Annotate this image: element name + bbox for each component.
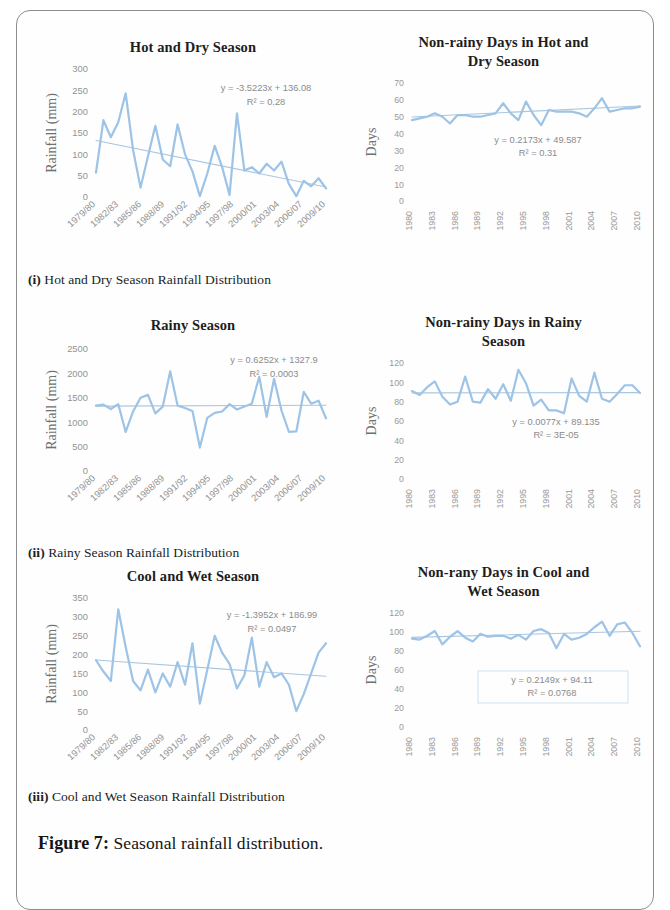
svg-text:1000: 1000 <box>67 417 88 428</box>
svg-text:50: 50 <box>78 170 88 181</box>
svg-text:1980: 1980 <box>404 211 414 231</box>
svg-text:1980: 1980 <box>404 737 414 757</box>
svg-text:150: 150 <box>72 127 88 138</box>
panel-cool-wet-nonrainy: Non-rany Days in Cool and Wet Season 020… <box>356 563 651 796</box>
svg-text:300: 300 <box>72 63 88 74</box>
subcaption-i-text: Hot and Dry Season Rainfall Distribution <box>41 272 271 287</box>
svg-text:40: 40 <box>394 129 404 139</box>
subcaption-ii: (ii) Rainy Season Rainfall Distribution <box>28 545 239 561</box>
chart-cool-wet-nonrainy: 020406080100120Days198019831986198919921… <box>356 601 651 796</box>
svg-text:2001: 2001 <box>564 737 574 757</box>
svg-text:1986: 1986 <box>450 737 460 757</box>
chart-rainy-rainfall: 05001000150020002500Rainfall (mm)1979/80… <box>34 335 352 540</box>
svg-text:Days: Days <box>364 656 379 685</box>
svg-text:1992: 1992 <box>495 737 505 757</box>
svg-text:1995: 1995 <box>518 211 528 231</box>
chart-title-rainy-rainfall: Rainy Season <box>34 316 352 335</box>
subcaption-iii: (iii) Cool and Wet Season Rainfall Distr… <box>28 789 285 805</box>
svg-text:y = 0.2173x + 49.587: y = 0.2173x + 49.587 <box>494 135 581 145</box>
subcaption-iii-lead: (iii) <box>28 789 49 804</box>
svg-text:y = -3.5223x + 136.08: y = -3.5223x + 136.08 <box>221 83 311 93</box>
svg-text:40: 40 <box>394 436 404 446</box>
chart-hot-dry-nonrainy: 010203040506070Days198019831986198919921… <box>356 71 651 266</box>
svg-text:100: 100 <box>72 149 88 160</box>
svg-text:1998: 1998 <box>541 737 551 757</box>
svg-text:80: 80 <box>394 397 404 407</box>
svg-text:1986: 1986 <box>450 211 460 231</box>
svg-text:2500: 2500 <box>67 343 88 354</box>
svg-text:100: 100 <box>389 378 404 388</box>
svg-text:y = -1.3952x + 186.99: y = -1.3952x + 186.99 <box>227 610 317 620</box>
svg-text:1983: 1983 <box>427 737 437 757</box>
figure-caption: Figure 7: Seasonal rainfall distribution… <box>38 833 323 854</box>
svg-text:R² = 0.28: R² = 0.28 <box>247 97 286 107</box>
chart-title-rainy-nonrainy-line1: Non-rainy Days in Rainy <box>356 313 651 332</box>
svg-text:0: 0 <box>399 722 404 732</box>
svg-text:20: 20 <box>394 455 404 465</box>
svg-text:100: 100 <box>389 627 404 637</box>
svg-text:R² = 3E-05: R² = 3E-05 <box>533 430 578 440</box>
svg-text:Days: Days <box>364 407 379 436</box>
panel-rainy-rainfall: Rainy Season 05001000150020002500Rainfal… <box>34 316 352 540</box>
svg-text:0: 0 <box>399 474 404 484</box>
svg-text:0: 0 <box>399 196 404 206</box>
svg-text:50: 50 <box>394 112 404 122</box>
chart-svg-rainy-rainfall: 05001000150020002500Rainfall (mm)1979/80… <box>34 335 352 540</box>
svg-text:500: 500 <box>72 441 88 452</box>
svg-text:2010: 2010 <box>632 211 642 231</box>
svg-text:1998: 1998 <box>541 211 551 231</box>
subcaption-i-lead: (i) <box>28 272 41 287</box>
svg-text:Rainfall (mm): Rainfall (mm) <box>44 93 60 173</box>
svg-text:1986: 1986 <box>450 489 460 509</box>
svg-text:1995: 1995 <box>518 737 528 757</box>
svg-text:R² = 0.0003: R² = 0.0003 <box>250 369 299 379</box>
svg-text:2007: 2007 <box>609 737 619 757</box>
svg-text:1980: 1980 <box>404 489 414 509</box>
svg-text:20: 20 <box>394 703 404 713</box>
svg-text:10: 10 <box>394 180 404 190</box>
svg-text:120: 120 <box>389 358 404 368</box>
panel-hot-dry-rainfall: Hot and Dry Season 050100150200250300Rai… <box>34 38 352 262</box>
svg-text:1989: 1989 <box>472 737 482 757</box>
chart-title-cool-wet-nonrainy-line1: Non-rany Days in Cool and <box>356 563 651 582</box>
svg-text:Rainfall (mm): Rainfall (mm) <box>44 370 60 450</box>
svg-text:30: 30 <box>394 146 404 156</box>
subcaption-ii-text: Rainy Season Rainfall Distribution <box>45 545 239 560</box>
chart-title-cool-wet-rainfall: Cool and Wet Season <box>34 567 352 586</box>
svg-text:1983: 1983 <box>427 489 437 509</box>
svg-text:R² = 0.0497: R² = 0.0497 <box>248 624 297 634</box>
svg-text:60: 60 <box>394 95 404 105</box>
chart-svg-hot-dry-nonrainy: 010203040506070Days198019831986198919921… <box>356 71 651 266</box>
svg-text:60: 60 <box>394 665 404 675</box>
svg-text:2007: 2007 <box>609 489 619 509</box>
subcaption-ii-lead: (ii) <box>28 545 45 560</box>
svg-text:20: 20 <box>394 163 404 173</box>
svg-text:1500: 1500 <box>67 392 88 403</box>
svg-text:y = 0.0077x + 89.135: y = 0.0077x + 89.135 <box>512 417 599 427</box>
chart-cool-wet-rainfall: 050100150200250300350Rainfall (mm)1979/8… <box>34 586 352 796</box>
chart-hot-dry-rainfall: 050100150200250300Rainfall (mm)1979/8019… <box>34 57 352 262</box>
svg-text:120: 120 <box>389 608 404 618</box>
svg-text:y = 0.2149x + 94.11: y = 0.2149x + 94.11 <box>511 675 593 685</box>
svg-text:250: 250 <box>72 630 88 641</box>
chart-rainy-nonrainy: 020406080100120Days198019831986198919921… <box>356 351 651 546</box>
svg-text:R² = 0.31: R² = 0.31 <box>519 148 558 158</box>
svg-text:2010: 2010 <box>632 489 642 509</box>
chart-title-hot-dry-rainfall: Hot and Dry Season <box>34 38 352 57</box>
svg-text:Days: Days <box>364 128 379 157</box>
svg-text:300: 300 <box>72 611 88 622</box>
svg-text:200: 200 <box>72 649 88 660</box>
svg-text:60: 60 <box>394 416 404 426</box>
svg-text:1992: 1992 <box>495 211 505 231</box>
figure-caption-text: Seasonal rainfall distribution. <box>109 833 323 853</box>
chart-title-cool-wet-nonrainy-line2: Wet Season <box>356 582 651 601</box>
svg-text:70: 70 <box>394 78 404 88</box>
svg-text:2000: 2000 <box>67 368 88 379</box>
subcaption-iii-text: Cool and Wet Season Rainfall Distributio… <box>49 789 285 804</box>
svg-text:40: 40 <box>394 684 404 694</box>
svg-text:1998: 1998 <box>541 489 551 509</box>
panel-rainy-nonrainy: Non-rainy Days in Rainy Season 020406080… <box>356 313 651 546</box>
svg-text:1989: 1989 <box>472 489 482 509</box>
svg-text:350: 350 <box>72 592 88 603</box>
